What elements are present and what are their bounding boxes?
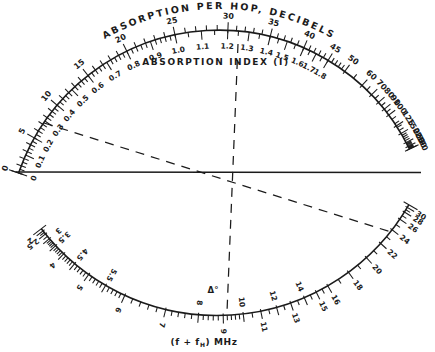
scale-tick: [27, 152, 32, 154]
bottom-scale-arc: [41, 205, 409, 316]
scale-tick: [374, 251, 378, 255]
scale-tick: [367, 86, 370, 90]
scale-tick: [65, 258, 68, 262]
scale-tick: [85, 78, 88, 82]
scale-tick: [268, 36, 270, 45]
frequency-scale-label: 7: [157, 321, 167, 328]
db-scale-label: 45: [328, 42, 343, 56]
scale-tick: [23, 162, 28, 164]
scale-tick: [150, 41, 153, 50]
scale-tick: [399, 128, 403, 131]
scale-tick: [252, 313, 253, 318]
scale-tick: [115, 58, 117, 62]
scale-tick: [291, 38, 293, 43]
scale-tick: [77, 268, 80, 272]
scale-tick: [141, 45, 143, 50]
frequency-scale-label: 4: [48, 260, 58, 270]
scale-tick: [309, 45, 311, 50]
scale-tick: [71, 83, 74, 87]
frequency-scale-label: 22: [385, 247, 399, 261]
scale-tick: [269, 309, 270, 314]
scale-tick: [131, 299, 133, 304]
db-scale-label: 35: [267, 17, 280, 29]
db-scale-label: 5: [17, 126, 28, 136]
absorption-index-label: 1.3: [240, 43, 254, 54]
scale-tick: [127, 51, 131, 59]
scale-tick: [99, 67, 102, 71]
scale-tick: [24, 159, 29, 161]
scale-tick: [402, 133, 406, 136]
scale-tick: [63, 99, 67, 102]
scale-tick: [57, 251, 61, 255]
scale-tick: [108, 56, 111, 60]
scale-tick: [81, 81, 84, 85]
frequency-scale-label: 6: [113, 306, 123, 314]
scale-tick: [74, 266, 77, 270]
bottom-title-post: ) MHz: [206, 337, 238, 347]
scale-tick: [308, 51, 310, 56]
decibel-scale-group: 0510152025303540455060708090100125150200…: [0, 11, 430, 173]
scale-tick: [405, 138, 409, 140]
scale-tick: [123, 53, 125, 57]
absorption-index-label: 0.1: [33, 154, 47, 170]
scale-tick: [48, 108, 52, 111]
scale-tick: [100, 61, 103, 65]
scale-tick: [54, 247, 58, 250]
scale-tick: [379, 242, 386, 249]
db-scale-label: 50: [346, 53, 361, 67]
scale-tick: [115, 292, 117, 296]
frequency-scale-label: 9: [219, 329, 228, 334]
scale-tick: [59, 252, 62, 256]
frequency-scale-label: 24: [398, 233, 412, 247]
scale-tick: [170, 36, 171, 41]
scale-tick: [29, 148, 33, 150]
scale-tick: [26, 142, 30, 144]
scale-tick: [392, 116, 396, 119]
scale-tick: [34, 128, 38, 131]
scale-tick: [55, 249, 59, 252]
scale-tick: [284, 305, 286, 310]
scale-tick: [201, 31, 202, 40]
scale-tick: [338, 63, 341, 67]
inner-scale-title: ABSORPTION INDEX (I): [142, 57, 289, 67]
absorption-index-label: 0.8: [126, 59, 142, 73]
scale-tick: [155, 40, 157, 45]
scale-tick: [23, 149, 28, 151]
scale-tick: [36, 134, 40, 137]
scale-tick: [154, 35, 156, 40]
absorption-index-label: 0: [29, 174, 39, 182]
delta-angle-annotation: Δ°: [208, 285, 219, 295]
scale-tick: [103, 65, 106, 69]
scale-tick: [386, 237, 390, 240]
scale-tick: [119, 294, 121, 299]
scale-tick: [156, 307, 157, 312]
scale-tick: [365, 256, 372, 263]
scale-tick: [19, 157, 24, 159]
absorption-index-label: 1.4: [259, 46, 274, 58]
scale-tick: [332, 58, 335, 62]
scale-tick: [354, 74, 357, 78]
db-scale-label: 0: [0, 164, 10, 173]
scale-tick: [66, 96, 70, 99]
scale-tick: [277, 33, 278, 38]
absorption-index-label: 1.0: [171, 44, 186, 56]
frequency-scale-label: 4.5: [75, 247, 90, 263]
scale-tick: [116, 51, 118, 55]
db-scale-label: 300: [414, 133, 430, 152]
scale-tick: [294, 44, 296, 49]
scale-tick: [342, 65, 345, 69]
scale-tick: [297, 300, 299, 305]
scale-tick: [195, 26, 196, 31]
scale-tick: [93, 279, 96, 283]
scale-tick: [92, 73, 95, 77]
scale-tick: [185, 313, 186, 318]
absorption-index-label: 1.1: [196, 42, 210, 52]
scale-tick: [39, 122, 43, 125]
scale-tick: [38, 131, 42, 134]
scale-tick: [17, 164, 22, 166]
scale-tick: [239, 314, 240, 319]
scale-tick: [67, 260, 70, 264]
scale-tick: [32, 141, 36, 143]
scale-tick: [31, 145, 35, 147]
scale-tick: [335, 60, 338, 64]
